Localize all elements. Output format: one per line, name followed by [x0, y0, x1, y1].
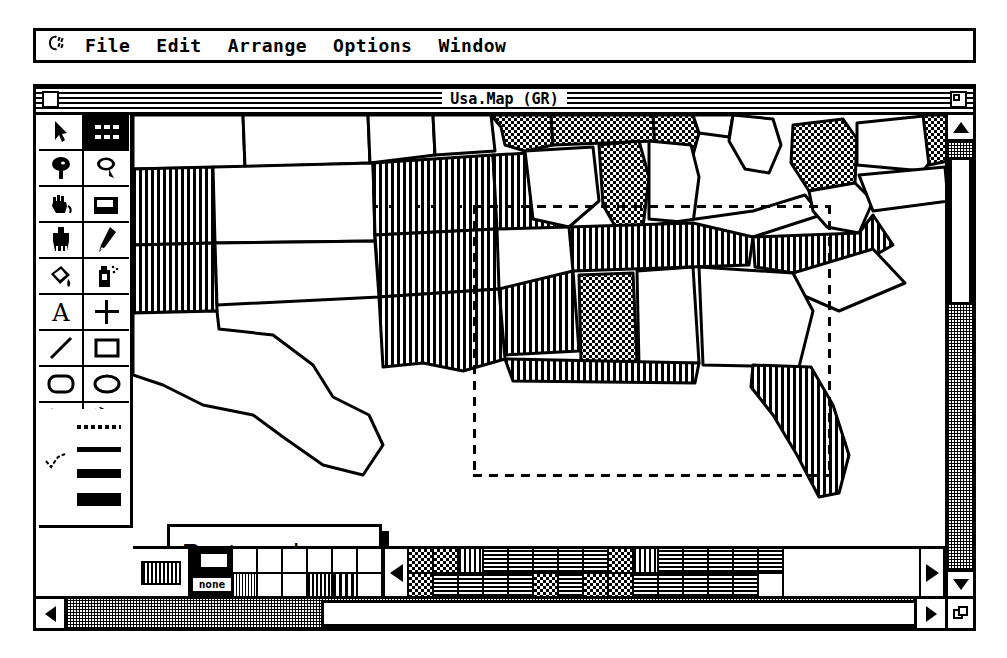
pattern-swatch[interactable]	[459, 549, 482, 574]
arrow-up-icon	[953, 122, 969, 133]
tool-oval[interactable]	[84, 367, 129, 403]
pattern-swatch-column	[258, 549, 283, 596]
scroll-left-button[interactable]	[36, 599, 67, 628]
pattern-swatch[interactable]	[634, 574, 657, 597]
pattern-swatch-column	[534, 549, 559, 596]
pattern-swatch-column	[684, 549, 709, 596]
tool-paintbrush[interactable]	[39, 223, 84, 259]
menu-item-arrange[interactable]: Arrange	[215, 37, 320, 55]
pattern-swatch-column	[634, 549, 659, 596]
pattern-swatch-strip-right	[409, 549, 919, 596]
line-width-dotted[interactable]	[77, 425, 121, 429]
tool-camera[interactable]	[84, 187, 129, 223]
zoom-box[interactable]	[950, 91, 967, 108]
pattern-swatch[interactable]	[684, 549, 707, 574]
horizontal-scrollbar[interactable]	[36, 596, 945, 628]
menu-item-file[interactable]: File	[72, 37, 143, 55]
menu-item-options[interactable]: Options	[320, 37, 425, 55]
pattern-swatch[interactable]	[659, 574, 682, 597]
pattern-swatch[interactable]	[609, 574, 632, 597]
tool-paint-bucket[interactable]	[39, 259, 84, 295]
pattern-swatch[interactable]	[584, 549, 607, 574]
pattern-swatch[interactable]	[509, 549, 532, 574]
pattern-swatch[interactable]	[534, 549, 557, 574]
pattern-swatch[interactable]	[534, 574, 557, 597]
pattern-swatch-column	[734, 549, 759, 596]
pattern-swatch[interactable]	[759, 549, 782, 574]
current-pattern-cell[interactable]	[133, 549, 191, 596]
pattern-swatch[interactable]	[258, 549, 281, 574]
pattern-swatch[interactable]	[734, 574, 757, 597]
scroll-up-button[interactable]	[948, 115, 973, 142]
horizontal-scroll-thumb[interactable]	[321, 600, 943, 627]
pattern-swatch[interactable]	[333, 574, 356, 597]
apple-menu-icon[interactable]	[36, 34, 72, 55]
pattern-swatch[interactable]	[584, 574, 607, 597]
pattern-swatch[interactable]	[258, 574, 281, 597]
pattern-scroll-left-button[interactable]	[383, 549, 409, 596]
tool-rounded-rectangle[interactable]	[39, 367, 84, 403]
menu-item-edit[interactable]: Edit	[143, 37, 214, 55]
window-title-bar[interactable]: Usa.Map (GR)	[36, 87, 973, 115]
pattern-swatch[interactable]	[484, 549, 507, 574]
pattern-swatch[interactable]	[559, 574, 582, 597]
pattern-swatch-column	[659, 549, 684, 596]
pattern-swatch[interactable]	[609, 549, 632, 574]
tool-lasso-filled[interactable]	[39, 151, 84, 187]
pattern-swatch[interactable]	[358, 574, 381, 597]
tool-arrow-pointer[interactable]	[39, 115, 84, 151]
line-width-thick[interactable]	[77, 493, 121, 506]
tool-rectangle[interactable]	[84, 331, 129, 367]
pattern-scroll-right-button[interactable]	[919, 549, 945, 596]
pattern-swatch[interactable]	[759, 574, 782, 597]
tool-text[interactable]: A	[39, 295, 84, 331]
resize-corner-icon	[953, 606, 969, 622]
pattern-swatch[interactable]	[409, 574, 432, 597]
pattern-swatch[interactable]	[709, 574, 732, 597]
pattern-swatch[interactable]	[233, 574, 256, 597]
pattern-swatch[interactable]	[308, 574, 331, 597]
vertical-scrollbar[interactable]	[945, 115, 973, 596]
pattern-swatch[interactable]	[333, 549, 356, 574]
line-width-thin[interactable]	[77, 447, 121, 452]
pattern-swatch[interactable]	[509, 574, 532, 597]
pattern-swatch[interactable]	[559, 549, 582, 574]
pattern-swatch[interactable]	[684, 574, 707, 597]
pattern-swatch[interactable]	[233, 549, 256, 574]
vertical-scroll-thumb[interactable]	[949, 157, 972, 305]
pattern-swatch[interactable]	[734, 549, 757, 574]
pattern-swatch[interactable]	[459, 574, 482, 597]
scroll-right-button[interactable]	[914, 599, 945, 628]
drawing-canvas[interactable]	[133, 115, 945, 546]
pattern-swatch[interactable]	[283, 549, 306, 574]
tool-grid: A	[39, 115, 130, 439]
tool-grabber-hand[interactable]	[39, 187, 84, 223]
tool-crosshair[interactable]	[84, 295, 129, 331]
tool-line[interactable]	[39, 331, 84, 367]
menu-item-window[interactable]: Window	[425, 37, 519, 55]
pattern-swatch[interactable]	[283, 574, 306, 597]
tool-pencil[interactable]	[84, 223, 129, 259]
tool-rectangular-marquee[interactable]	[84, 115, 129, 151]
pattern-swatch[interactable]	[358, 549, 381, 574]
pattern-swatch[interactable]	[634, 549, 657, 574]
pattern-swatch[interactable]	[484, 574, 507, 597]
pattern-swatch[interactable]	[308, 549, 331, 574]
chevron-right-icon	[926, 564, 939, 582]
pattern-none-cell[interactable]: none	[191, 549, 233, 596]
tool-spray-can[interactable]	[84, 259, 129, 295]
pattern-swatch-column	[358, 549, 383, 596]
line-width-medium[interactable]	[77, 469, 121, 478]
close-box[interactable]	[42, 91, 59, 108]
pattern-swatch[interactable]	[709, 549, 732, 574]
pattern-swatch[interactable]	[659, 549, 682, 574]
line-width-palette	[39, 409, 130, 525]
tool-lasso-outline[interactable]	[84, 151, 129, 187]
pattern-swatch-column	[333, 549, 358, 596]
pattern-swatch[interactable]	[434, 549, 457, 574]
grow-box[interactable]	[945, 596, 973, 628]
pattern-palette: none	[133, 546, 945, 596]
pattern-swatch[interactable]	[409, 549, 432, 574]
scroll-down-button[interactable]	[948, 569, 973, 596]
pattern-swatch[interactable]	[434, 574, 457, 597]
